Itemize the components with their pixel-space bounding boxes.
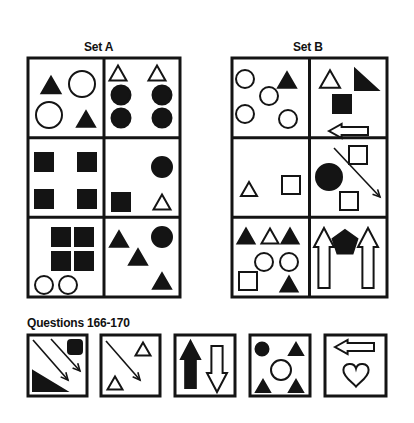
filled-circle-icon: [316, 164, 342, 190]
filled-triangle-icon: [238, 229, 255, 244]
cell-a-r3c1: [35, 228, 93, 294]
triangle-icon: [241, 182, 257, 196]
circle-icon: [236, 70, 254, 88]
square-icon: [282, 176, 300, 194]
filled-square-icon: [75, 252, 93, 270]
cell-b-r1c1: [236, 70, 297, 128]
cell-b-r2c1: [241, 176, 300, 196]
cell-a-r3c2: [110, 227, 172, 289]
triangle-icon: [154, 195, 171, 210]
square-icon: [340, 192, 358, 210]
question-panel-166[interactable]: [28, 335, 87, 396]
question-panel-167[interactable]: [101, 335, 160, 396]
question-panel-170[interactable]: [325, 335, 386, 396]
filled-triangle-icon: [42, 77, 61, 94]
cell-a-r1c1: [36, 71, 95, 128]
cell-a-r1c2: [110, 66, 172, 128]
question-panel-169[interactable]: [250, 335, 310, 396]
diagram-canvas: [0, 0, 414, 423]
filled-circle-icon: [112, 86, 131, 105]
filled-triangle-icon: [153, 273, 171, 289]
filled-square-icon: [75, 228, 93, 246]
filled-square-icon: [52, 228, 70, 246]
circle-icon: [280, 253, 298, 271]
cell-b-r2c2: [316, 146, 380, 210]
filled-triangle-icon: [282, 229, 299, 244]
filled-square-icon: [78, 190, 96, 208]
right-triangle-icon: [355, 69, 378, 90]
filled-circle-icon: [153, 86, 172, 105]
circle-icon: [59, 276, 77, 294]
question-box: [175, 335, 235, 396]
circle-icon: [279, 110, 297, 128]
cell-a-r2c2: [112, 157, 172, 211]
filled-triangle-icon: [110, 231, 128, 247]
square-icon: [239, 272, 257, 290]
circle-icon: [36, 102, 62, 128]
triangle-icon: [320, 70, 340, 87]
filled-triangle-icon: [281, 277, 298, 292]
triangle-icon: [262, 229, 279, 244]
question-panels: [28, 335, 386, 396]
circle-icon: [69, 71, 95, 97]
circle-icon: [260, 87, 278, 105]
filled-triangle-icon: [278, 72, 296, 88]
set-a-grid: [28, 58, 180, 297]
cell-b-r3c2: [314, 228, 378, 288]
filled-circle-icon: [152, 157, 172, 177]
up-arrow-icon: [358, 228, 378, 288]
filled-square-icon: [35, 190, 53, 208]
rounded-square-icon: [68, 340, 82, 354]
triangle-icon: [110, 66, 127, 81]
filled-circle-icon: [112, 109, 131, 128]
filled-square-icon: [35, 153, 53, 171]
filled-triangle-icon: [129, 249, 147, 265]
up-arrow-icon: [314, 228, 334, 288]
filled-circle-icon: [152, 227, 172, 247]
filled-triangle-icon: [77, 111, 95, 127]
filled-circle-icon: [153, 109, 172, 128]
circle-icon: [236, 105, 254, 123]
filled-circle-icon: [256, 343, 269, 356]
question-panel-168[interactable]: [175, 335, 235, 396]
square-icon: [349, 146, 367, 164]
cell-b-r1c2: [320, 69, 378, 138]
filled-square-icon: [78, 153, 96, 171]
pentagon-icon: [333, 230, 358, 254]
filled-square-icon: [112, 193, 130, 211]
cell-b-r3c1: [238, 229, 299, 292]
set-b-grid: [232, 58, 387, 297]
filled-square-icon: [333, 95, 351, 113]
cell-a-r2c1: [35, 153, 96, 208]
circle-icon: [35, 276, 53, 294]
triangle-icon: [149, 66, 166, 81]
left-arrow-icon: [329, 124, 368, 138]
filled-square-icon: [52, 252, 70, 270]
circle-icon: [255, 253, 273, 271]
